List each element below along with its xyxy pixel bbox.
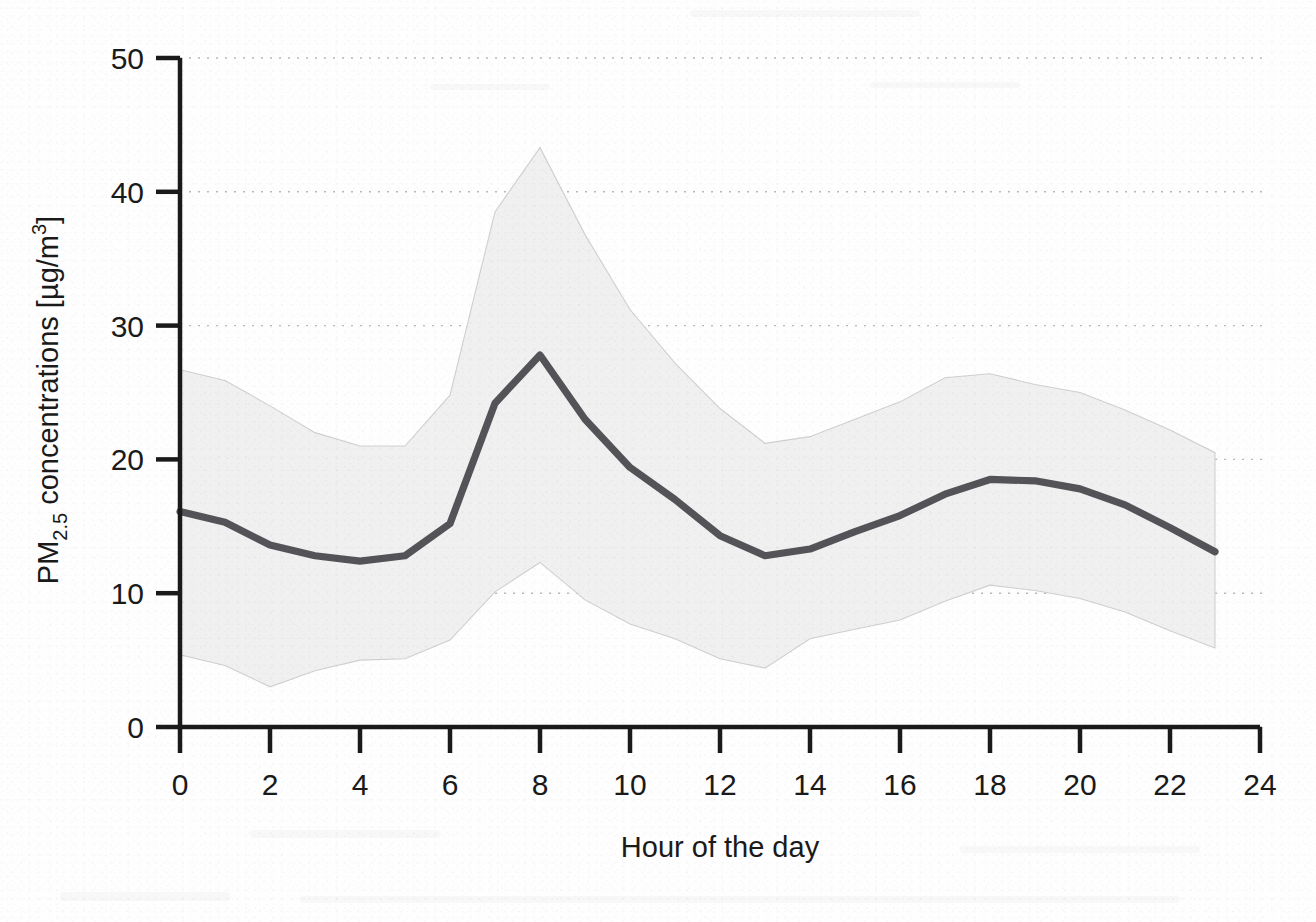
y-tick-label: 30 xyxy=(111,310,144,343)
y-axis-ticks xyxy=(156,58,180,727)
x-tick-label: 0 xyxy=(172,768,189,801)
x-tick-label: 22 xyxy=(1153,768,1186,801)
chart-figure: 01020304050 024681012141618202224 PM2.5 … xyxy=(0,0,1316,922)
y-tick-label: 50 xyxy=(111,42,144,75)
x-axis-title: Hour of the day xyxy=(621,831,820,863)
x-tick-label: 24 xyxy=(1243,768,1276,801)
x-tick-label: 12 xyxy=(703,768,736,801)
y-tick-label: 0 xyxy=(127,711,144,744)
x-tick-label: 16 xyxy=(883,768,916,801)
x-tick-label: 20 xyxy=(1063,768,1096,801)
y-axis-tick-labels: 01020304050 xyxy=(111,42,144,744)
x-tick-label: 2 xyxy=(262,768,279,801)
x-axis-ticks xyxy=(180,727,1260,753)
y-tick-label: 40 xyxy=(111,176,144,209)
x-axis-tick-labels: 024681012141618202224 xyxy=(172,768,1277,801)
pm25-diurnal-line-chart: 01020304050 024681012141618202224 PM2.5 … xyxy=(0,0,1316,922)
x-tick-label: 10 xyxy=(613,768,646,801)
x-tick-label: 4 xyxy=(352,768,369,801)
y-tick-label: 10 xyxy=(111,577,144,610)
x-tick-label: 14 xyxy=(793,768,826,801)
x-tick-label: 8 xyxy=(532,768,549,801)
x-tick-label: 6 xyxy=(442,768,459,801)
x-tick-label: 18 xyxy=(973,768,1006,801)
uncertainty-band xyxy=(180,148,1215,687)
y-axis-title: PM2.5 concentrations [µg/m3] xyxy=(28,216,71,584)
y-tick-label: 20 xyxy=(111,443,144,476)
